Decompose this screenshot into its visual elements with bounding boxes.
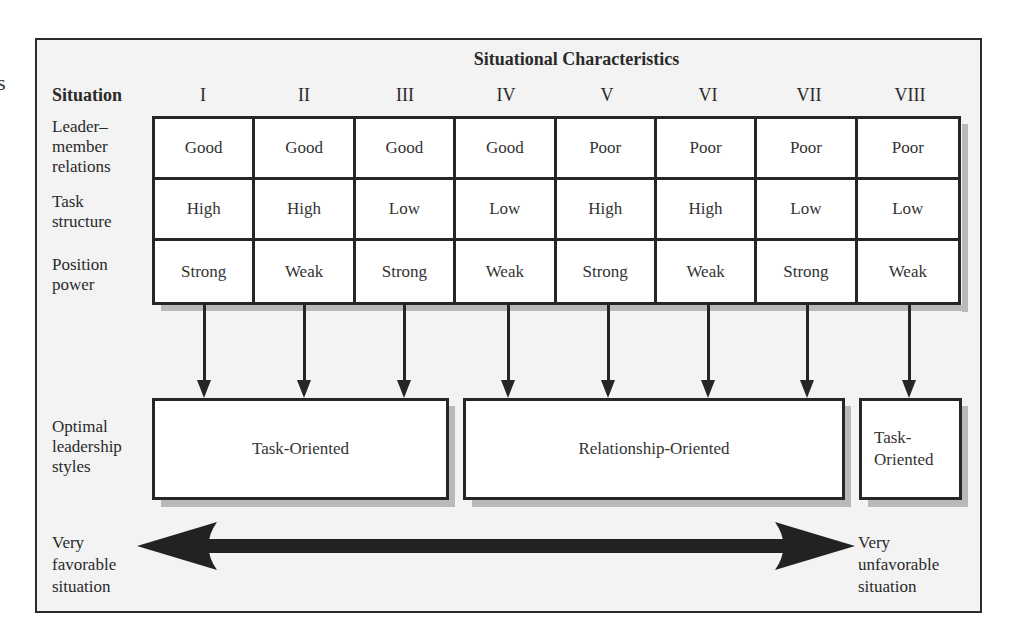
label-line: relations (52, 157, 111, 177)
style-box-task-oriented: Task-Oriented (152, 398, 449, 500)
title-text: Situational Characteristics (474, 49, 679, 70)
label-line: Very (858, 532, 939, 554)
cell-task-III: Low (356, 180, 456, 241)
cell-power-VII: Strong (757, 241, 857, 302)
cell-power-V: Strong (557, 241, 657, 302)
label-line: leadership (52, 437, 122, 457)
cell-task-IV: Low (456, 180, 556, 241)
cell-relations-V: Poor (557, 119, 657, 180)
cell-relations-IV: Good (456, 119, 556, 180)
situation-grid: Good Good Good Good Poor Poor Poor Poor … (152, 116, 961, 305)
row-label-optimal-leadership-styles: Optimal leadership styles (52, 417, 122, 477)
cell-task-V: High (557, 180, 657, 241)
arrow-down-icon (601, 380, 615, 398)
arrow-shaft-I (203, 305, 206, 381)
arrow-down-icon (902, 380, 916, 398)
arrow-shaft-IV (507, 305, 510, 381)
box-shadow (868, 500, 968, 507)
label-line: Position (52, 255, 108, 275)
cell-task-VI: High (657, 180, 757, 241)
situation-I: I (153, 85, 253, 106)
cell-task-II: High (255, 180, 355, 241)
cell-relations-II: Good (255, 119, 355, 180)
label-very-unfavorable-situation: Very unfavorable situation (858, 532, 939, 598)
label-line: power (52, 275, 108, 295)
label-line: Leader– (52, 117, 111, 137)
cell-task-I: High (155, 180, 255, 241)
arrow-down-icon (197, 380, 211, 398)
cell-power-VIII: Weak (858, 241, 958, 302)
arrow-down-icon (800, 380, 814, 398)
box-shadow (449, 406, 455, 507)
cell-relations-III: Good (356, 119, 456, 180)
label-very-favorable-situation: Very favorable situation (52, 532, 116, 598)
style-box-label: Task-Oriented (252, 439, 349, 459)
label-line: structure (52, 212, 111, 232)
situation-VI: VI (658, 85, 758, 106)
label-line: situation (52, 576, 116, 598)
box-shadow (161, 500, 455, 507)
arrow-shaft-VII (806, 305, 809, 381)
row-label-leader-member-relations: Leader– member relations (52, 117, 111, 177)
style-box-task-oriented-viii: Task- Oriented (859, 398, 962, 500)
cell-task-VII: Low (757, 180, 857, 241)
arrow-down-icon (501, 380, 515, 398)
arrow-shaft-VIII (908, 305, 911, 381)
situation-II: II (254, 85, 354, 106)
label-line: Task (52, 192, 111, 212)
situation-IV: IV (456, 85, 556, 106)
situation-III: III (355, 85, 455, 106)
cell-relations-VI: Poor (657, 119, 757, 180)
cell-relations-I: Good (155, 119, 255, 180)
style-box-label-line: Oriented (874, 449, 933, 471)
arrow-down-icon (701, 380, 715, 398)
arrow-shaft-VI (707, 305, 710, 381)
box-shadow (962, 406, 968, 507)
label-line: member (52, 137, 111, 157)
box-shadow (472, 500, 851, 507)
arrow-shaft-V (607, 305, 610, 381)
style-box-relationship-oriented: Relationship-Oriented (463, 398, 845, 500)
grid-shadow-bottom (161, 305, 968, 311)
situation-VIII: VIII (860, 85, 960, 106)
diagram-title: Situational Characteristics (0, 49, 1013, 70)
label-line: Optimal (52, 417, 122, 437)
cell-task-VIII: Low (858, 180, 958, 241)
row-label-position-power: Position power (52, 255, 108, 295)
label-line: favorable (52, 554, 116, 576)
row-label-task-structure: Task structure (52, 192, 111, 232)
label-line: situation (858, 576, 939, 598)
favorability-double-arrow-icon (130, 515, 865, 577)
cell-relations-VIII: Poor (858, 119, 958, 180)
label-line: unfavorable (858, 554, 939, 576)
arrow-shaft-II (303, 305, 306, 381)
cell-power-III: Strong (356, 241, 456, 302)
style-box-label: Relationship-Oriented (578, 439, 729, 459)
situation-label: Situation (52, 85, 122, 106)
label-line: styles (52, 457, 122, 477)
situation-VII: VII (759, 85, 859, 106)
grid-shadow-right (962, 124, 968, 312)
stray-glyph: s (0, 70, 6, 96)
arrow-down-icon (397, 380, 411, 398)
arrow-down-icon (297, 380, 311, 398)
cell-relations-VII: Poor (757, 119, 857, 180)
style-box-label-line: Task- (874, 427, 933, 449)
situation-V: V (557, 85, 657, 106)
label-line: Very (52, 532, 116, 554)
box-shadow (845, 406, 851, 507)
arrow-shaft-III (403, 305, 406, 381)
cell-power-II: Weak (255, 241, 355, 302)
cell-power-IV: Weak (456, 241, 556, 302)
cell-power-I: Strong (155, 241, 255, 302)
cell-power-VI: Weak (657, 241, 757, 302)
